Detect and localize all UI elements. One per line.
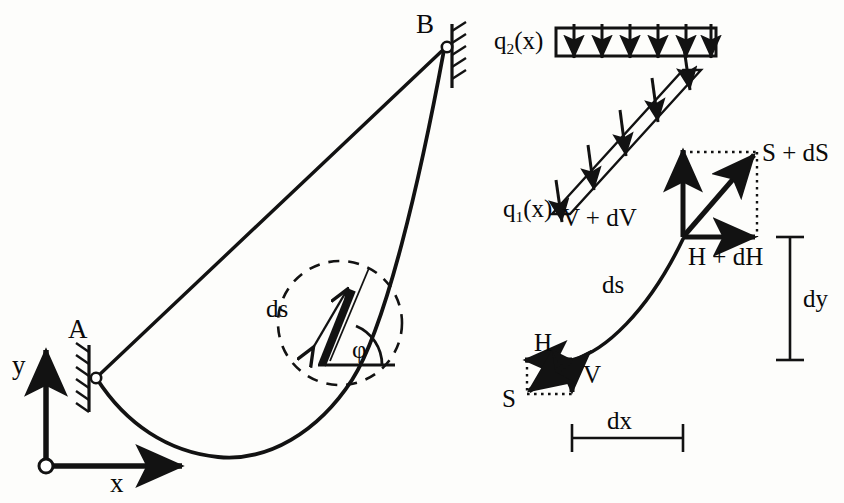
label-element-ds: ds: [602, 272, 624, 297]
force-s-plus-ds-arrow: [683, 155, 754, 237]
support-a-hatching: [76, 343, 89, 412]
load-q1-band: [552, 48, 701, 222]
label-load-q1-arg: (x): [523, 195, 552, 222]
label-load-q1-subscript: 1: [516, 208, 524, 225]
cable-curve: [97, 50, 444, 458]
label-axis-x: x: [110, 470, 124, 497]
label-force-v-plus-dv: V + dV: [562, 205, 637, 230]
label-force-h-plus-dh: H + dH: [688, 244, 763, 269]
label-load-q1: q1(x): [503, 196, 552, 221]
dimension-dy: [776, 237, 804, 360]
label-load-q1-base: q: [503, 195, 516, 222]
label-dimension-dy: dy: [803, 286, 828, 311]
label-force-s-plus-ds: S + dS: [762, 140, 829, 165]
label-detail-ds: ds: [266, 296, 288, 321]
right-panel-group: [525, 24, 804, 452]
ds-element-segment: [322, 290, 352, 365]
force-s-arrow: [529, 360, 572, 391]
label-angle-phi: φ: [352, 337, 366, 362]
load-q2-block: [556, 24, 716, 58]
label-load-q2-subscript: 2: [507, 40, 515, 57]
label-load-q2: q2(x): [494, 28, 543, 53]
chord-a-b: [97, 48, 445, 377]
label-force-v: V: [583, 362, 601, 387]
label-load-q2-base: q: [494, 27, 507, 54]
label-axis-y: y: [12, 352, 26, 379]
left-panel-group: [39, 22, 466, 473]
label-load-q2-arg: (x): [514, 27, 543, 54]
label-force-h: H: [534, 330, 552, 355]
pin-joint-b: [442, 42, 452, 52]
label-support-b: B: [416, 11, 434, 38]
axis-origin-marker: [39, 459, 53, 473]
label-force-s: S: [502, 386, 516, 411]
label-dimension-dx: dx: [607, 408, 632, 433]
label-support-a: A: [68, 316, 88, 343]
element-ds-curve: [572, 239, 683, 360]
support-b-hatching: [452, 22, 466, 88]
pin-joint-a: [91, 373, 101, 383]
cable-statics-figure: A B y x ds φ q2(x) q1(x) V + dV H + dH S…: [0, 0, 844, 503]
